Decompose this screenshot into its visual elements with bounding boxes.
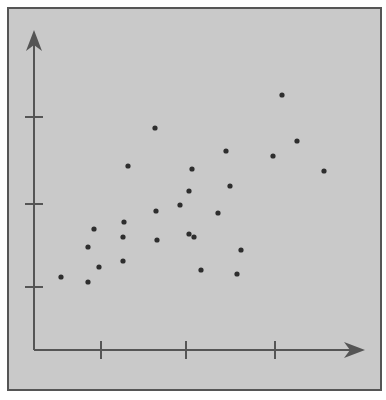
data-point bbox=[154, 237, 159, 242]
data-point bbox=[58, 274, 63, 279]
data-point bbox=[120, 258, 125, 263]
data-point bbox=[215, 210, 220, 215]
chart-frame bbox=[8, 8, 381, 390]
data-point bbox=[85, 279, 90, 284]
data-point bbox=[294, 138, 299, 143]
data-point bbox=[186, 231, 191, 236]
data-point bbox=[121, 219, 126, 224]
scatter-chart bbox=[0, 0, 386, 400]
data-point bbox=[189, 166, 194, 171]
data-point bbox=[227, 183, 232, 188]
data-point bbox=[186, 188, 191, 193]
data-point bbox=[153, 208, 158, 213]
data-point bbox=[85, 244, 90, 249]
data-point bbox=[96, 264, 101, 269]
data-point bbox=[125, 163, 130, 168]
data-point bbox=[270, 153, 275, 158]
data-point bbox=[238, 247, 243, 252]
data-point bbox=[279, 92, 284, 97]
data-point bbox=[191, 234, 196, 239]
data-point bbox=[120, 234, 125, 239]
data-point bbox=[223, 148, 228, 153]
data-point bbox=[177, 202, 182, 207]
data-point bbox=[321, 168, 326, 173]
data-point bbox=[152, 125, 157, 130]
data-point bbox=[234, 271, 239, 276]
data-point bbox=[91, 226, 96, 231]
data-point bbox=[198, 267, 203, 272]
